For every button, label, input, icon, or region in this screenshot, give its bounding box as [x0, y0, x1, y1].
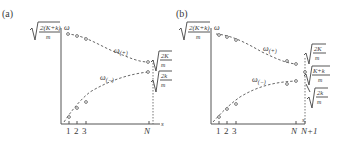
top-value-sqrt: 2(K+k) m	[179, 22, 210, 40]
lower-end-value-sqrt: 2k m	[151, 71, 172, 92]
x-tick-n-plus-1: N+1	[300, 126, 318, 136]
x-tick-1: 1	[216, 126, 221, 136]
x-tick-3: 3	[82, 126, 87, 136]
upper-branch-label: ω(+)	[114, 46, 128, 57]
svg-text:2k: 2k	[317, 89, 323, 96]
svg-text:2K: 2K	[314, 45, 322, 52]
svg-text:m: m	[161, 62, 166, 68]
upper-branch-label: ω(+)	[263, 44, 277, 55]
panel-label: (b)	[176, 8, 188, 20]
svg-text:2(K+k): 2(K+k)	[189, 24, 210, 32]
upper-end-value-sqrt: 2K m	[304, 44, 326, 64]
middle-value-sqrt: K+k m	[304, 66, 330, 85]
lower-branch-curve	[213, 81, 296, 122]
top-value-numerator: 2(K+k)	[40, 24, 61, 32]
n-plus-1-point	[304, 71, 307, 74]
upper-branch-curve	[216, 34, 296, 64]
x-tick-3: 3	[232, 126, 237, 136]
x-tick-2: 2	[74, 126, 79, 136]
upper-end-value-sqrt: 2K m	[151, 51, 172, 71]
svg-text:K+k: K+k	[312, 67, 325, 74]
dispersion-diagram: .ax { stroke: #555; stroke-width: 1; fil…	[0, 0, 344, 144]
x-tick-2: 2	[224, 126, 229, 136]
lower-end-value-sqrt: 2k m	[307, 88, 328, 108]
svg-text:m: m	[196, 34, 201, 40]
lower-branch-label: ω(−)	[100, 73, 114, 84]
x-axis-label: s	[161, 120, 164, 128]
lower-end-pointer	[306, 84, 310, 92]
x-tick-n: N	[143, 126, 151, 136]
panel-b: (b) ω s 2(K+k) m ω(+) ω(−) 2K	[176, 8, 330, 136]
panel-label: (a)	[2, 8, 13, 20]
svg-text:m: m	[317, 99, 322, 105]
svg-text:2k: 2k	[161, 72, 167, 79]
top-value-denominator: m	[46, 34, 51, 40]
svg-text:m: m	[318, 77, 323, 83]
x-tick-n: N	[290, 126, 298, 136]
panel-a: (a) ω s 2(K+k) m ω(+) ω(−) 2K	[2, 8, 172, 136]
y-axis-label: ω	[214, 23, 220, 32]
y-axis-label: ω	[64, 23, 70, 32]
top-value-sqrt: 2(K+k) m	[30, 22, 61, 40]
lower-branch-label: ω(−)	[252, 75, 266, 86]
x-tick-1: 1	[66, 126, 71, 136]
svg-text:m: m	[315, 55, 320, 61]
svg-text:2K: 2K	[161, 52, 169, 59]
upper-branch-curve	[67, 34, 148, 62]
svg-text:m: m	[161, 82, 166, 88]
